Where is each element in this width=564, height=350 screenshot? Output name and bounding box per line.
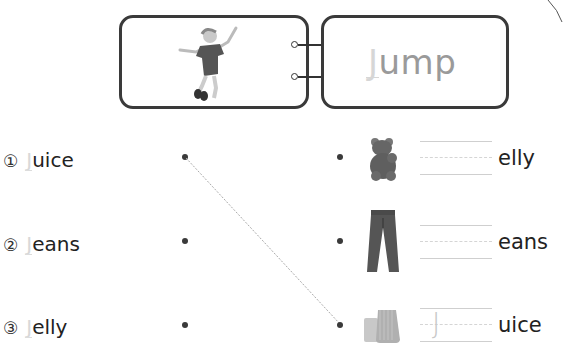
line-mid <box>420 241 492 242</box>
right-dot-3[interactable] <box>337 322 343 328</box>
line-top <box>420 308 492 309</box>
jeans-image <box>365 210 401 272</box>
right-word-eans: eans <box>498 230 548 254</box>
line-bottom <box>420 258 492 259</box>
gummy-bear-image <box>365 136 401 182</box>
right-dot-1[interactable] <box>337 154 343 160</box>
writing-lines-1[interactable] <box>420 140 492 176</box>
connection-line-juice <box>186 158 340 324</box>
writing-lines-3[interactable]: J <box>420 307 492 343</box>
line-mid <box>420 324 492 325</box>
writing-lines-2[interactable] <box>420 224 492 260</box>
right-dot-2[interactable] <box>337 238 343 244</box>
line-mid <box>420 157 492 158</box>
line-bottom <box>420 174 492 175</box>
right-word-elly: elly <box>498 146 535 170</box>
juice-glass-image <box>362 300 402 344</box>
traced-letter: J <box>432 308 440 340</box>
line-top <box>420 141 492 142</box>
line-bottom <box>420 341 492 342</box>
line-top <box>420 225 492 226</box>
right-word-uice: uice <box>498 313 542 337</box>
